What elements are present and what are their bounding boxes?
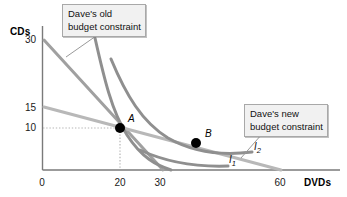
indifference-curve-i2 [111,59,252,153]
callout-new-line1: Dave's new [250,108,323,121]
x-tick-label-60: 60 [268,177,292,188]
data-point-b-label: B [205,128,212,139]
y-tick-label-15: 15 [8,102,36,113]
x-axis-title: DVDs [304,177,331,188]
callout-leader-old [66,36,96,57]
chart-plot-area [0,0,347,197]
x-tick-label-30: 30 [148,177,172,188]
data-point-a-marker [115,123,125,133]
economics-indifference-curve-figure: CDs 30 15 10 0 20 30 60 DVDs Dave's old … [0,0,347,197]
curve-label-i1: I1 [229,154,236,168]
curve-label-i2: I2 [254,141,261,155]
x-tick-label-20: 20 [108,177,132,188]
callout-old-line2: budget constraint [68,21,141,34]
y-tick-label-30: 30 [8,34,36,45]
callout-new-line2: budget constraint [250,121,323,134]
curve-label-i2-sub: 2 [257,146,261,155]
curve-label-i1-sub: 1 [232,159,236,168]
callout-old-line1: Dave's old [68,8,141,21]
old-budget-constraint-line [44,40,163,170]
x-tick-label-0: 0 [30,177,54,188]
data-point-a-label: A [128,113,135,124]
y-tick-label-10: 10 [8,122,36,133]
callout-old-budget-constraint: Dave's old budget constraint [62,4,146,37]
callout-new-budget-constraint: Dave's new budget constraint [244,104,328,137]
data-point-b-marker [191,138,201,148]
